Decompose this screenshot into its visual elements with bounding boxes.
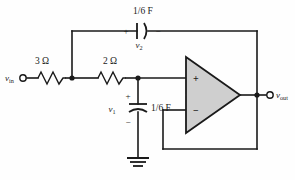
resistor-r2-zigzag: [98, 72, 126, 84]
capacitor-c1-minus-mark: −: [125, 117, 130, 127]
junction-node-b: [135, 75, 140, 80]
resistor-r1-label: 3 Ω: [35, 56, 49, 66]
ground-symbol: [127, 158, 149, 166]
junction-node-a: [69, 75, 74, 80]
output-terminal-label: vout: [276, 90, 288, 101]
input-terminal-label: vin: [5, 73, 14, 84]
operational-amplifier: + −: [186, 57, 240, 133]
opamp-inverting-pin-label: −: [193, 105, 199, 116]
output-terminal-circle[interactable]: [267, 92, 273, 98]
input-terminal-circle[interactable]: [20, 75, 26, 81]
capacitor-c2-plate-negative: [144, 23, 147, 39]
circuit-schematic: vin vout 3 Ω 2 Ω 1/6 F + − v2: [0, 0, 295, 180]
resistor-r2-label: 2 Ω: [103, 56, 117, 66]
2-ohm-resistor: [98, 72, 126, 84]
capacitor-c2-voltage-label: v2: [135, 40, 142, 51]
resistor-r1-zigzag: [38, 72, 66, 84]
opamp-triangle: [186, 57, 240, 133]
feedback-capacitor: [137, 23, 147, 39]
circuit-diagram-page: vin vout 3 Ω 2 Ω 1/6 F + − v2: [0, 0, 295, 180]
capacitor-c2-value-label: 1/6 F: [133, 6, 153, 16]
capacitor-c1-plus-mark: +: [125, 91, 130, 101]
capacitor-c1-voltage-label: v1: [108, 104, 115, 115]
opamp-noninverting-pin-label: +: [193, 73, 199, 84]
3-ohm-resistor: [38, 72, 66, 84]
junction-node-output: [254, 92, 259, 97]
capacitor-c1-value-label: 1/6 F: [151, 103, 171, 113]
capacitor-c2-plus-mark: +: [123, 26, 128, 36]
capacitor-c2-minus-mark: −: [155, 26, 160, 36]
shunt-capacitor: [129, 104, 147, 112]
